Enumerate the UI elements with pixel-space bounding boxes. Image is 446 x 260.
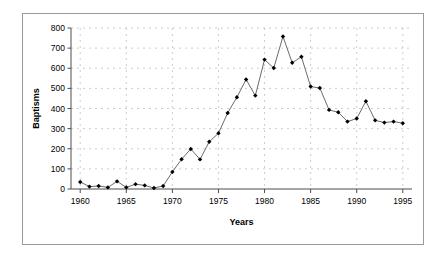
x-axis-title: Years — [229, 217, 253, 227]
x-tick-label-1990: 1990 — [347, 196, 366, 206]
y-tick-label-300: 300 — [51, 124, 65, 134]
y-tick-label-600: 600 — [51, 63, 65, 73]
x-tick-label-1970: 1970 — [163, 196, 182, 206]
baptisms-line-chart: 0100200300400500600700800196019651970197… — [0, 0, 446, 260]
x-tick-label-1995: 1995 — [393, 196, 412, 206]
y-axis-title: Baptisms — [31, 88, 41, 129]
y-tick-label-400: 400 — [51, 104, 65, 114]
y-tick-label-100: 100 — [51, 164, 65, 174]
chart-figure: 0100200300400500600700800196019651970197… — [0, 0, 446, 260]
x-tick-label-1960: 1960 — [71, 196, 90, 206]
y-tick-label-0: 0 — [60, 184, 65, 194]
y-tick-label-700: 700 — [51, 43, 65, 53]
x-tick-label-1980: 1980 — [255, 196, 274, 206]
x-tick-label-1985: 1985 — [301, 196, 320, 206]
y-tick-label-800: 800 — [51, 23, 65, 33]
y-tick-label-500: 500 — [51, 83, 65, 93]
y-tick-label-200: 200 — [51, 144, 65, 154]
x-tick-label-1965: 1965 — [117, 196, 136, 206]
x-tick-label-1975: 1975 — [209, 196, 228, 206]
